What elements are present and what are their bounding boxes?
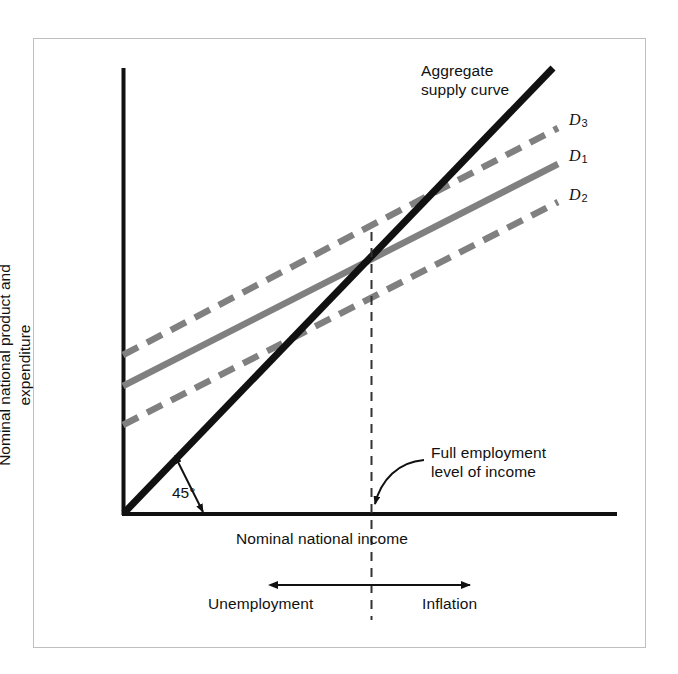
full-employment-leader-arrow — [375, 460, 424, 504]
curve-label-d2-subscript: 2 — [581, 192, 588, 204]
curve-label-d1-subscript: 1 — [581, 153, 588, 165]
angle-label: 45° — [172, 484, 195, 502]
curve-label-d2-letter: D — [569, 186, 581, 203]
curve-label-d1-letter: D — [569, 147, 581, 164]
inflation-label: Inflation — [422, 594, 477, 613]
x-axis-label: Nominal national income — [236, 529, 408, 548]
unemployment-label: Unemployment — [208, 594, 313, 613]
demand-curve-d1 — [123, 164, 558, 386]
curve-label-d2: D2 — [569, 186, 588, 204]
y-axis-label: Nominal national product and expenditure — [0, 250, 35, 480]
curve-label-d3: D3 — [569, 111, 588, 129]
demand-curve-d3 — [123, 128, 558, 355]
chart-canvas — [0, 0, 678, 674]
curve-label-d3-letter: D — [569, 111, 581, 128]
curve-label-d3-subscript: 3 — [581, 117, 588, 129]
full-employment-annotation: Full employment level of income — [431, 443, 546, 481]
aggregate-supply-annotation: Aggregate supply curve — [421, 61, 509, 99]
demand-curve-d2 — [123, 202, 558, 425]
figure-container: Nominal national product and expenditure… — [0, 0, 678, 674]
curve-label-d1: D1 — [569, 147, 588, 165]
